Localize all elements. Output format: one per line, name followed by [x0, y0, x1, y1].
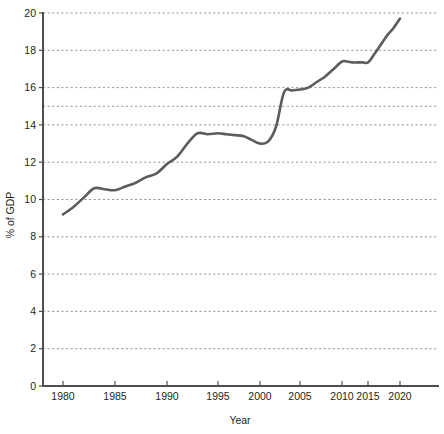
x-tick-label-1985: 1985: [103, 390, 127, 402]
x-tick-label-2000: 2000: [248, 390, 272, 402]
axes: [43, 13, 438, 386]
x-tick-label-2005: 2005: [288, 390, 312, 402]
x-tick-label-1990: 1990: [155, 390, 179, 402]
x-tick-label-2010: 2010: [330, 390, 354, 402]
y-tick-label-0: 0: [30, 380, 36, 392]
chart-canvas: 02468101214161820 1980198519901995200020…: [0, 0, 444, 434]
y-tick-label-8: 8: [30, 230, 36, 242]
y-tick-label-12: 12: [24, 156, 36, 168]
gridlines: [43, 13, 438, 349]
y-tick-label-2: 2: [30, 342, 36, 354]
x-axis-title: Year: [229, 414, 251, 426]
y-axis-title: % of GDP: [4, 192, 16, 239]
line-chart: 02468101214161820 1980198519901995200020…: [0, 0, 444, 434]
x-tick-label-1980: 1980: [51, 390, 75, 402]
y-tick-label-18: 18: [24, 44, 36, 56]
y-tick-label-14: 14: [24, 119, 36, 131]
x-axis-tick-labels: 198019851990199520002005201020152020: [51, 390, 412, 402]
data-series-line: [63, 19, 400, 215]
y-tick-label-10: 10: [24, 193, 36, 205]
y-tick-label-6: 6: [30, 268, 36, 280]
y-axis-tick-labels: 02468101214161820: [24, 7, 36, 392]
y-tick-label-4: 4: [30, 305, 36, 317]
y-tick-label-16: 16: [24, 81, 36, 93]
x-tick-label-2015: 2015: [356, 390, 380, 402]
x-tick-label-2020: 2020: [388, 390, 412, 402]
y-tick-label-20: 20: [24, 7, 36, 19]
x-tick-label-1995: 1995: [206, 390, 230, 402]
